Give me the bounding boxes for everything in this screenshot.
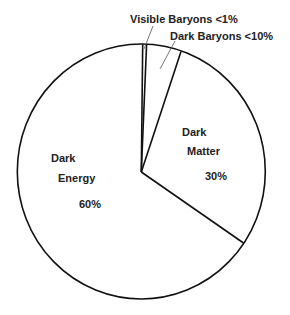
label-visible-baryons: Visible Baryons <1%	[130, 13, 238, 25]
label-dark-energy-line2: Energy	[58, 172, 96, 184]
label-dark-energy-percent: 60%	[79, 198, 101, 210]
label-dark-matter-line2: Matter	[187, 145, 221, 157]
label-dark-energy-line1: Dark	[51, 152, 76, 164]
label-dark-matter-line1: Dark	[182, 126, 207, 138]
label-dark-baryons: Dark Baryons <10%	[170, 30, 273, 42]
pie-chart: Visible Baryons <1% Dark Baryons <10% Da…	[0, 0, 290, 315]
label-dark-matter-percent: 30%	[205, 170, 227, 182]
